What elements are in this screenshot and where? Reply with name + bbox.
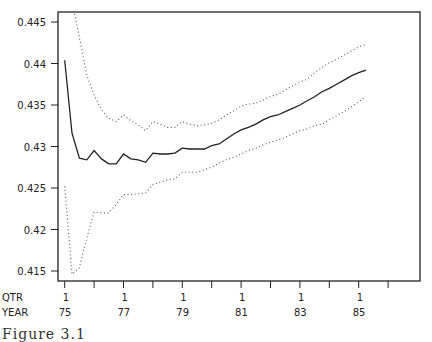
y-axis: 0.4150.420.4250.430.4350.440.445 <box>17 17 58 277</box>
x-tick-label: 75 <box>59 307 72 318</box>
estimate-line <box>65 60 366 164</box>
y-tick-label: 0.425 <box>17 183 46 194</box>
figure-caption: Figure 3.1 <box>2 326 86 342</box>
y-tick-label: 0.44 <box>24 59 46 70</box>
series-group <box>65 0 366 274</box>
x-tick-label: 81 <box>235 307 248 318</box>
x-tick-label: 83 <box>294 307 307 318</box>
confidence-band-line <box>65 0 366 131</box>
x-tick-label: 1 <box>239 292 245 303</box>
y-tick-label: 0.415 <box>17 266 46 277</box>
x-tick-label: 1 <box>180 292 186 303</box>
confidence-band-line <box>65 97 366 275</box>
y-tick-label: 0.43 <box>24 142 46 153</box>
x-tick-label: 1 <box>357 292 363 303</box>
y-tick-label: 0.435 <box>17 100 46 111</box>
plot-frame <box>58 12 420 281</box>
y-tick-label: 0.445 <box>17 17 46 28</box>
x-axis: QTR111111YEAR757779818385 <box>1 281 388 318</box>
x-row-label: YEAR <box>1 307 28 318</box>
x-tick-label: 1 <box>122 292 128 303</box>
x-tick-label: 79 <box>176 307 189 318</box>
x-row-label: QTR <box>2 292 23 303</box>
x-tick-label: 1 <box>63 292 69 303</box>
y-tick-label: 0.42 <box>24 225 46 236</box>
x-tick-label: 85 <box>353 307 366 318</box>
x-tick-label: 77 <box>118 307 131 318</box>
x-tick-label: 1 <box>298 292 304 303</box>
